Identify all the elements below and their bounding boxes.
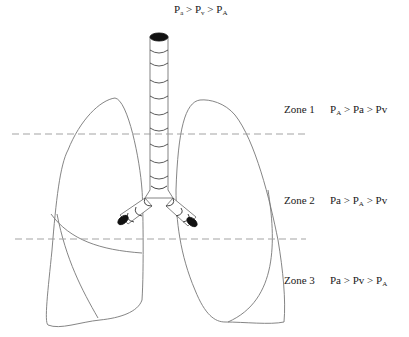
zone-name: Zone 2 [284, 194, 330, 206]
zone-name: Zone 1 [284, 103, 330, 115]
zone-1-label: Zone 1PA > Pa > Pv [284, 103, 387, 117]
right-lung [176, 100, 285, 323]
zone-2-label: Zone 2Pa > PA > Pv [284, 194, 387, 208]
right-bronchus [166, 198, 199, 229]
zone-name: Zone 3 [284, 274, 330, 286]
zone-3-label: Zone 3Pa > Pv > PA [284, 274, 387, 288]
trachea [145, 33, 173, 198]
pressure-relation-title: Pa > Pv > PA [174, 3, 227, 17]
left-bronchus [116, 198, 152, 227]
